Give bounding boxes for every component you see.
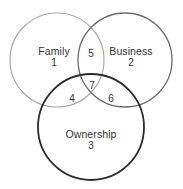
circle-family: [10, 13, 104, 107]
venn-diagram: Family 1 Business 2 Ownership 3 4 5 6 7: [0, 0, 183, 189]
venn-circles-svg: [0, 0, 183, 189]
circle-ownership: [38, 74, 144, 180]
circle-business: [78, 13, 172, 107]
